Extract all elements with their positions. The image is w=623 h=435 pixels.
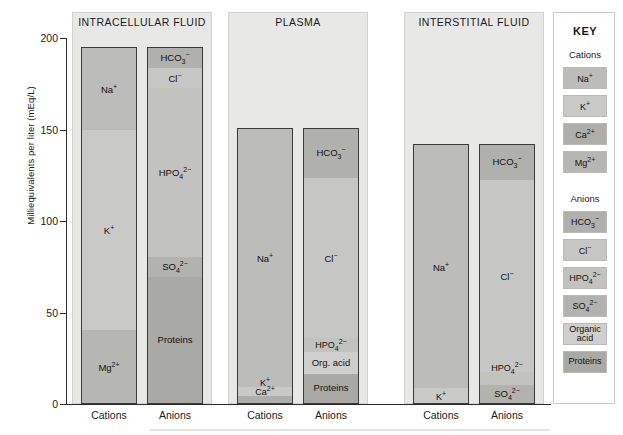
x-axis-baseline (66, 404, 551, 405)
y-tick-mark-200 (60, 38, 67, 39)
segment-label: Cl− (500, 270, 513, 282)
segment-hpo42[interactable]: HPO42− (304, 338, 358, 353)
key-legend: KEY CationsNa+K+Ca2+Mg2+AnionsHCO3−Cl−HP… (553, 12, 615, 404)
key-swatch-label: Ca2+ (575, 128, 595, 140)
segment-proteins[interactable]: Proteins (148, 277, 202, 403)
key-swatch-anion-3[interactable]: SO42− (563, 295, 607, 317)
key-swatch-label: SO42− (573, 299, 598, 313)
segment-label: SO42− (494, 387, 520, 401)
segment-label: Proteins (314, 383, 349, 393)
segment-label: Cl− (324, 252, 337, 264)
electrolyte-composition-chart: Milliequivalents per liter (mEq/L) 20015… (0, 0, 623, 435)
segment-label: Na+ (257, 252, 273, 264)
segment-na[interactable]: Na+ (414, 145, 468, 388)
key-swatch-anion-1[interactable]: Cl− (563, 239, 607, 261)
segment-label: HPO42− (315, 338, 346, 352)
category-label-anions: Anions (303, 409, 359, 421)
key-swatch-label: Na+ (577, 72, 593, 84)
key-swatch-cation-2[interactable]: Ca2+ (563, 123, 607, 145)
segment-label: HCO3− (316, 146, 345, 160)
segment-k[interactable]: K+ (238, 387, 292, 396)
category-label-cations: Cations (413, 409, 469, 421)
segment-label: HCO3− (160, 51, 189, 65)
segment-label: SO42− (162, 260, 188, 274)
category-label-anions: Anions (147, 409, 203, 421)
key-swatch-anion-4[interactable]: Organicacid (563, 323, 607, 345)
segment-label: Org. acid (312, 358, 351, 368)
key-heading-anions: Anions (554, 193, 616, 204)
key-swatch-label: K+ (580, 100, 590, 112)
key-title: KEY (554, 25, 616, 37)
bar-interstitial-fluid-anions[interactable]: HCO3−Cl−HPO42−SO42− (479, 144, 535, 404)
panel-title-intracellular-fluid: INTRACELLULAR FLUID (72, 16, 212, 28)
bar-plasma-cations[interactable]: Na+K+Ca2+ (237, 128, 293, 404)
y-tick-label-50: 50 (20, 307, 58, 319)
segment-orgacid[interactable]: Org. acid (304, 352, 358, 374)
segment-label: Proteins (158, 335, 193, 345)
y-tick-mark-50 (60, 313, 67, 314)
key-swatch-cation-1[interactable]: K+ (563, 95, 607, 117)
key-swatch-anion-2[interactable]: HPO42− (563, 267, 607, 289)
y-tick-label-150: 150 (20, 124, 58, 136)
key-swatch-label: Cl− (579, 244, 592, 256)
segment-ca2[interactable]: Ca2+ (238, 396, 292, 403)
segment-hco3[interactable]: HCO3− (304, 129, 358, 178)
bar-intracellular-fluid-anions[interactable]: HCO3−Cl−HPO42−SO42−Proteins (147, 47, 203, 404)
key-swatch-label: HCO3− (571, 215, 599, 229)
segment-so42[interactable]: SO42− (148, 257, 202, 277)
segment-label: K+ (436, 390, 446, 402)
bar-plasma-anions[interactable]: HCO3−Cl−HPO42−Org. acidProteins (303, 128, 359, 404)
segment-na[interactable]: Na+ (82, 48, 136, 130)
y-axis-title: Milliequivalents per liter (mEq/L) (25, 31, 36, 281)
key-swatch-cation-3[interactable]: Mg2+ (563, 151, 607, 173)
segment-hco3[interactable]: HCO3− (148, 48, 202, 68)
category-label-cations: Cations (237, 409, 293, 421)
segment-label: Cl− (168, 72, 181, 84)
y-tick-mark-0 (60, 404, 67, 405)
segment-mg2[interactable]: Mg2+ (82, 330, 136, 403)
segment-label: Mg2+ (98, 361, 119, 373)
segment-so42[interactable]: SO42− (480, 385, 534, 403)
segment-cl[interactable]: Cl− (304, 178, 358, 338)
key-heading-cations: Cations (554, 49, 616, 60)
segment-hco3[interactable]: HCO3− (480, 145, 534, 180)
y-tick-mark-150 (60, 130, 67, 131)
key-swatch-anion-0[interactable]: HCO3− (563, 211, 607, 233)
segment-na[interactable]: Na+ (238, 129, 292, 387)
segment-label: Na+ (101, 83, 117, 95)
segment-k[interactable]: K+ (82, 130, 136, 330)
bar-intracellular-fluid-cations[interactable]: Na+K+Mg2+ (81, 47, 137, 404)
key-swatch-label: Mg2+ (575, 156, 596, 168)
bar-interstitial-fluid-cations[interactable]: Na+K+ (413, 144, 469, 404)
y-tick-label-200: 200 (20, 32, 58, 44)
footer-rule (150, 429, 550, 431)
key-swatch-label: Proteins (568, 357, 601, 366)
y-tick-label-0: 0 (20, 398, 58, 410)
y-tick-label-100: 100 (20, 215, 58, 227)
segment-cl[interactable]: Cl− (480, 180, 534, 373)
key-swatch-label: Organicacid (569, 325, 601, 344)
category-label-cations: Cations (81, 409, 137, 421)
panel-title-interstitial-fluid: INTERSTITIAL FLUID (404, 16, 544, 28)
y-tick-mark-100 (60, 221, 67, 222)
panel-title-plasma: PLASMA (228, 16, 368, 28)
segment-proteins[interactable]: Proteins (304, 374, 358, 403)
segment-label: K+ (104, 224, 114, 236)
segment-label: Na+ (433, 261, 449, 273)
key-swatch-anion-5[interactable]: Proteins (563, 351, 607, 373)
category-label-anions: Anions (479, 409, 535, 421)
segment-cl[interactable]: Cl− (148, 68, 202, 88)
segment-label: HCO3− (492, 155, 521, 169)
segment-hpo42[interactable]: HPO42− (480, 372, 534, 385)
key-swatch-cation-0[interactable]: Na+ (563, 67, 607, 89)
segment-hpo42[interactable]: HPO42− (148, 88, 202, 257)
key-swatch-label: HPO42− (569, 271, 600, 285)
segment-k[interactable]: K+ (414, 388, 468, 403)
segment-label: HPO42− (159, 166, 191, 180)
